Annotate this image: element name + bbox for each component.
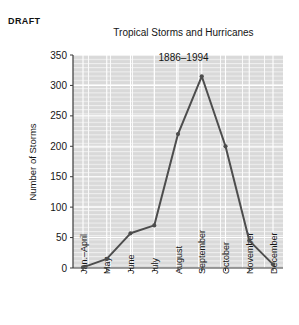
chart-title-line2: 1886–1994 [159,52,209,63]
y-axis-tick-label: 100 [50,202,67,213]
x-axis-tick-label: July [150,257,160,274]
y-axis-tick-label: 250 [50,110,67,121]
chart-title-line1: Tropical Storms and Hurricanes [113,27,253,38]
data-point-marker [152,223,156,227]
draft-watermark-label: DRAFT [8,16,41,26]
data-point-marker [247,239,251,243]
data-point-marker [105,257,109,261]
y-axis-tick-label: 350 [50,50,67,61]
chart-figure: DRAFT Tropical Storms and Hurricanes 188… [0,0,299,325]
x-axis-tick-label: August [174,245,184,274]
y-axis-tick-label: 0 [61,263,67,274]
x-axis-tick-label: September [197,230,207,274]
y-axis-tick-label: 150 [50,171,67,182]
y-axis-tick-label: 200 [50,141,67,152]
y-axis-tick-label: 50 [56,232,68,243]
chart-title: Tropical Storms and Hurricanes 1886–1994 [73,14,283,77]
x-axis-tick-label: June [126,254,136,274]
data-point-marker [128,231,132,235]
y-axis-tick-label: 300 [50,80,67,91]
data-point-marker [176,132,180,136]
data-point-marker [81,265,85,269]
y-axis-tick-labels: 050100150200250300350 [50,50,73,274]
x-axis-tick-label: October [221,242,231,274]
y-axis-title: Number of Storms [27,123,38,200]
data-point-marker [223,144,227,148]
data-point-marker [271,262,275,266]
